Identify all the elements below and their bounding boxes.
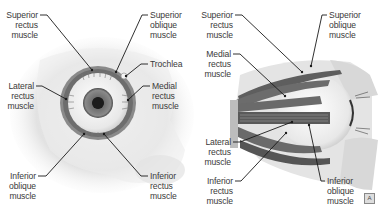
lateral-view [230, 15, 378, 190]
credit-icon: A [364, 193, 375, 204]
eye-muscles-illustration [0, 0, 381, 212]
label-inferior-oblique-anterior: Inferior oblique muscle [0, 171, 36, 201]
label-lateral-rectus-lateral: Lateral rectus muscle [195, 137, 231, 167]
eye-muscles-figure: Superior rectus muscle Superior oblique … [0, 0, 381, 212]
label-inferior-rectus-lateral: Inferior rectus muscle [195, 176, 233, 206]
label-superior-rectus-lateral: Superior rectus muscle [195, 10, 233, 40]
label-medial-rectus-anterior: Medial rectus muscle [152, 81, 188, 111]
label-medial-rectus-lateral: Medial rectus muscle [195, 49, 231, 79]
label-superior-oblique-anterior: Superior oblique muscle [150, 10, 190, 40]
label-superior-rectus-anterior: Superior rectus muscle [2, 10, 38, 40]
label-inferior-rectus-anterior: Inferior rectus muscle [150, 171, 190, 201]
label-inferior-oblique-lateral: Inferior oblique muscle [327, 176, 367, 206]
label-trochlea-anterior: Trochlea [150, 59, 190, 69]
label-lateral-rectus-anterior: Lateral rectus muscle [0, 81, 34, 111]
label-superior-oblique-lateral: Superior oblique muscle [329, 10, 377, 40]
